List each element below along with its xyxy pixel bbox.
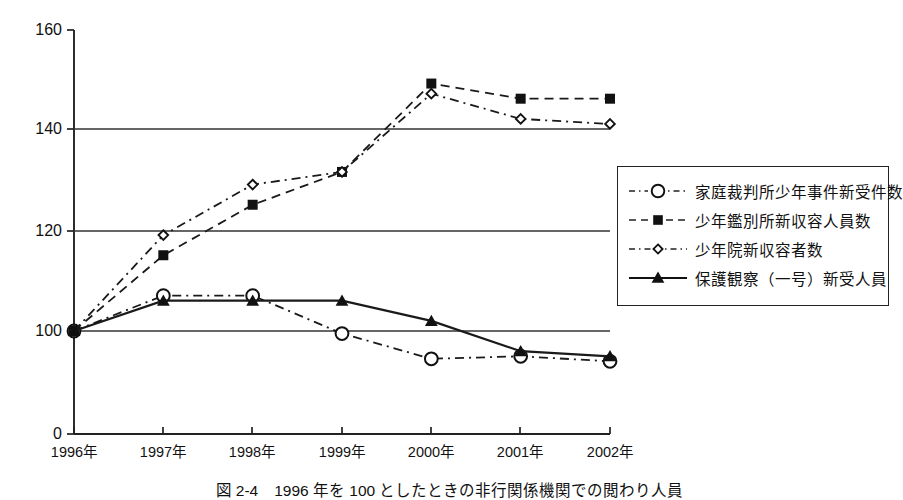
y-tick-label-120: 120 xyxy=(18,222,62,240)
chart-legend: 家庭裁判所少年事件新受件数 少年鑑別所新収容人員数 少年院新収容者数 xyxy=(617,166,889,306)
figure-caption: 図 2-4 1996 年を 100 としたときの非行関係機関での閲わり人員 xyxy=(0,478,899,500)
x-tick-label-1997: 1997年 xyxy=(126,440,200,461)
data-point-marker xyxy=(605,119,615,129)
legend-item-probation[interactable]: 保護観察（一号）新受人員 xyxy=(628,263,880,292)
y-tick-label-100: 100 xyxy=(18,322,62,340)
data-point-marker xyxy=(248,200,258,210)
series-line-1 xyxy=(74,84,610,331)
data-point-marker xyxy=(516,114,526,124)
data-point-marker xyxy=(427,89,437,99)
x-tick-label-2001: 2001年 xyxy=(483,440,557,461)
data-point-marker xyxy=(605,94,615,104)
x-tick-label-1999: 1999年 xyxy=(305,440,379,461)
series-layer xyxy=(68,79,617,368)
data-point-marker xyxy=(516,94,526,104)
x-tick-marks xyxy=(74,427,610,434)
small-open-diamond-icon xyxy=(628,239,688,259)
open-circle-icon xyxy=(628,181,688,201)
data-point-marker xyxy=(426,79,436,89)
legend-label-classification-home: 少年鑑別所新収容人員数 xyxy=(695,209,871,231)
legend-item-juvenile-training-school[interactable]: 少年院新収容者数 xyxy=(628,234,880,263)
x-tick-label-2002: 2002年 xyxy=(573,440,647,461)
data-point-marker xyxy=(425,352,438,365)
y-tick-label-140: 140 xyxy=(18,120,62,138)
x-tick-label-1996: 1996年 xyxy=(37,440,111,461)
legend-label-juvenile-training-school: 少年院新収容者数 xyxy=(695,238,823,260)
x-tick-label-1998: 1998年 xyxy=(215,440,289,461)
legend-item-classification-home[interactable]: 少年鑑別所新収容人員数 xyxy=(628,205,880,234)
legend-label-probation: 保護観察（一号）新受人員 xyxy=(695,267,887,289)
data-point-marker xyxy=(336,327,349,340)
y-tick-marks xyxy=(67,30,74,434)
x-tick-label-2000: 2000年 xyxy=(394,440,468,461)
data-point-marker xyxy=(158,250,168,260)
filled-triangle-icon xyxy=(628,268,688,288)
legend-label-family-court: 家庭裁判所少年事件新受件数 xyxy=(695,180,903,202)
filled-square-icon xyxy=(628,210,688,230)
legend-item-family-court[interactable]: 家庭裁判所少年事件新受件数 xyxy=(628,176,880,205)
data-point-marker xyxy=(248,180,258,190)
y-tick-label-160: 160 xyxy=(18,21,62,39)
